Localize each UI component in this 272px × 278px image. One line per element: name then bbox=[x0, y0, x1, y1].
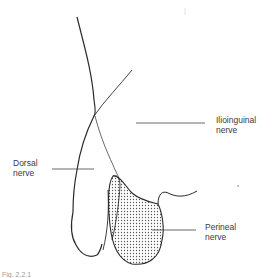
penis-outline bbox=[71, 17, 102, 256]
ilioinguinal-label-line2: nerve bbox=[216, 125, 256, 135]
ilioinguinal-nerve-label: Ilioinguinal nerve bbox=[216, 115, 256, 135]
dorsal-label-line1: Dorsal bbox=[13, 158, 38, 168]
perineal-label-line2: nerve bbox=[205, 232, 236, 242]
figure-caption: Fig. 2.2.1 bbox=[2, 271, 31, 278]
ilioinguinal-label-line1: Ilioinguinal bbox=[216, 115, 256, 125]
perineal-curve bbox=[158, 191, 197, 204]
perineal-label-line1: Perineal bbox=[205, 222, 236, 232]
inguinal-curve bbox=[94, 70, 132, 116]
dorsal-label-line2: nerve bbox=[13, 168, 38, 178]
scrotum-fold-inner bbox=[103, 190, 108, 250]
perineal-nerve-label: Perineal nerve bbox=[205, 222, 236, 242]
mark-dot bbox=[237, 185, 239, 187]
scrotum-stippled bbox=[108, 176, 163, 264]
ilioinguinal-nerve-path bbox=[95, 116, 120, 180]
dorsal-nerve-label: Dorsal nerve bbox=[13, 158, 38, 178]
